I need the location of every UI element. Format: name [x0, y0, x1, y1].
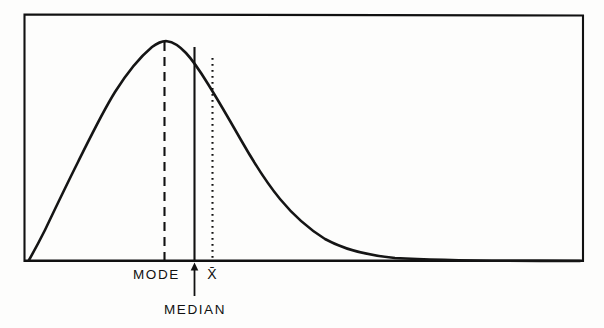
- skewed-distribution-figure: MODE X̄ MEDIAN: [0, 0, 604, 328]
- distribution-curve-group: [29, 41, 580, 261]
- distribution-curve: [29, 41, 580, 261]
- median-marker-group: [191, 47, 199, 296]
- mode-label: MODE: [133, 267, 180, 282]
- median-arrow-head: [191, 263, 199, 271]
- mean-label: X̄: [207, 266, 217, 282]
- figure-container: MODE X̄ MEDIAN: [0, 0, 604, 328]
- figure-labels-group: MODE X̄ MEDIAN: [133, 266, 226, 317]
- median-label: MEDIAN: [164, 302, 226, 317]
